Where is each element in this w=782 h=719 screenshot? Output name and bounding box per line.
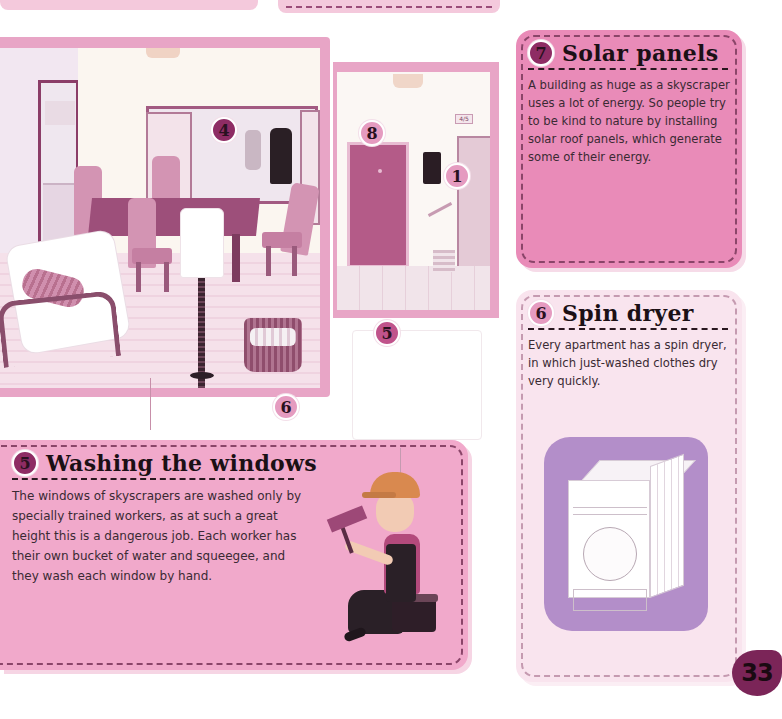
upper-panel-remnant-right (278, 0, 500, 13)
spin-dryer-illustration (568, 460, 686, 602)
sofa-armrest (0, 290, 121, 368)
panel-body-text: The windows of skyscrapers are washed on… (12, 486, 302, 586)
number-badge: 7 (528, 40, 554, 66)
panel-title: Spin dryer (562, 300, 694, 326)
callout-badge-8[interactable]: 8 (359, 120, 385, 146)
number-badge: 6 (528, 300, 554, 326)
title-underline (528, 68, 728, 70)
laundry-clothes (250, 328, 296, 346)
window-area (352, 330, 482, 440)
dryer-control-panel (573, 507, 647, 515)
stairs (433, 250, 455, 272)
worker-head (376, 492, 414, 532)
hard-hat-brim (362, 492, 396, 498)
door-peephole (378, 169, 382, 173)
dryer-front (568, 480, 650, 598)
ceiling-light (393, 74, 423, 88)
chair-leg (266, 246, 271, 276)
worker-bucket (392, 598, 436, 632)
worker-overalls (386, 544, 416, 602)
page-number: 33 (732, 650, 782, 696)
dining-table (88, 198, 260, 236)
dryer-drawer (573, 589, 647, 611)
callout-badge-4[interactable]: 4 (211, 117, 237, 143)
title-underline (528, 328, 728, 330)
floor-lamp-base (190, 372, 214, 379)
number-badge: 5 (12, 450, 38, 476)
panel-title: Solar panels (562, 40, 718, 66)
hanging-coat-dark (270, 128, 292, 184)
hallway-illustration: 4/5 (337, 72, 490, 310)
callout-badge-1[interactable]: 1 (444, 163, 470, 189)
chair-leg (164, 262, 169, 292)
callout-badge-6[interactable]: 6 (273, 394, 299, 420)
hanging-coat-light (245, 130, 261, 170)
kitchen-counter (43, 183, 77, 243)
window-washer-illustration (300, 448, 430, 658)
dryer-door (583, 527, 637, 581)
panel-body-text: Every apartment has a spin dryer, in whi… (528, 336, 730, 390)
panel-body-text: A building as huge as a skyscraper uses … (528, 76, 730, 166)
chair-leg (292, 246, 297, 276)
kitchen-doorway (38, 80, 78, 246)
floor-lamp-shade (180, 208, 224, 278)
squeegee (327, 505, 367, 532)
intercom-panel (423, 152, 441, 184)
stair-handrail (428, 202, 452, 217)
panel-heading: 6 Spin dryer (528, 300, 730, 326)
table-leg (232, 234, 240, 282)
elevator-sign: 4/5 (455, 114, 473, 124)
dryer-side (650, 454, 684, 598)
panel-heading: 7 Solar panels (528, 40, 730, 66)
kitchen-shelf (45, 101, 75, 125)
ceiling-light (146, 48, 180, 58)
chair-leg (136, 262, 141, 292)
apartment-door (347, 142, 409, 268)
living-room-illustration (0, 48, 320, 388)
tiled-floor (337, 266, 490, 310)
callout-badge-5[interactable]: 5 (374, 320, 400, 346)
upper-panel-remnant-left (0, 0, 258, 10)
worker-shoe (343, 627, 367, 643)
divider-line (150, 378, 151, 430)
title-underline (12, 478, 294, 480)
solar-panels-panel: 7 Solar panels A building as huge as a s… (516, 30, 742, 268)
panel-title: Washing the windows (46, 450, 317, 476)
